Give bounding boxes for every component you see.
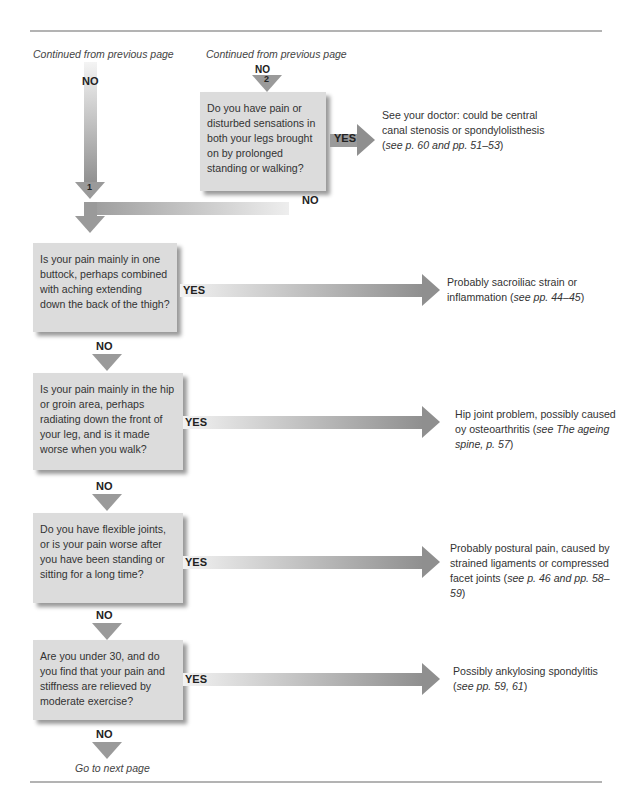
question-box-buttock: Is your pain mainly in one buttock, perh… (33, 243, 177, 332)
no-label: NO (96, 340, 113, 352)
arrow-right-icon (422, 406, 440, 438)
no-label: NO (96, 480, 113, 492)
result-ankylosing: Possibly ankylosing spondylitis (see pp.… (453, 664, 618, 694)
no-label-connector: NO (302, 194, 319, 206)
yes-label: YES (185, 673, 207, 685)
result-sacroiliac: Probably sacroiliac strain or inflammati… (447, 275, 612, 305)
yes-connector (183, 673, 423, 686)
yes-label: YES (185, 416, 207, 428)
no-horizontal-connector (84, 202, 289, 215)
marker-2: 2 (264, 74, 269, 84)
arrow-right-icon (422, 663, 440, 695)
bottom-rule (30, 781, 602, 783)
arrow-down-icon (92, 623, 122, 640)
arrow-right-icon (422, 274, 440, 306)
arrow-down-icon (75, 216, 105, 233)
yes-label: YES (183, 284, 205, 296)
go-to-next-page-label: Go to next page (75, 762, 150, 774)
question-box-joints: Do you have flexible joints, or is your … (33, 513, 183, 603)
yes-label: YES (185, 556, 207, 568)
result-stenosis: See your doctor: could be central canal … (382, 108, 547, 153)
question-box-hip: Is your pain mainly in the hip or groin … (33, 373, 183, 470)
result-postural: Probably postural pain, caused by strain… (450, 541, 615, 601)
yes-connector (183, 416, 423, 429)
no-label-left: NO (82, 75, 99, 87)
question-text: Do you have pain or disturbed sensations… (207, 102, 315, 174)
arrow-down-icon (92, 354, 122, 371)
marker-1: 1 (87, 182, 92, 192)
arrow-down-icon (92, 742, 122, 759)
no-label: NO (96, 728, 113, 740)
yes-connector (180, 284, 423, 297)
arrow-down-icon (92, 494, 122, 511)
arrow-right-icon (357, 124, 375, 156)
continued-right-label: Continued from previous page (206, 48, 347, 60)
continued-left-label: Continued from previous page (33, 48, 174, 60)
result-hip: Hip joint problem, possibly caused oy os… (455, 407, 618, 452)
no-label: NO (96, 609, 113, 621)
question-box-under30: Are you under 30, and do you find that y… (33, 640, 183, 720)
arrow-right-icon (422, 546, 440, 578)
question-box-legs: Do you have pain or disturbed sensations… (200, 92, 326, 191)
top-rule (30, 30, 602, 32)
yes-label: YES (334, 132, 356, 144)
yes-connector (183, 556, 423, 569)
